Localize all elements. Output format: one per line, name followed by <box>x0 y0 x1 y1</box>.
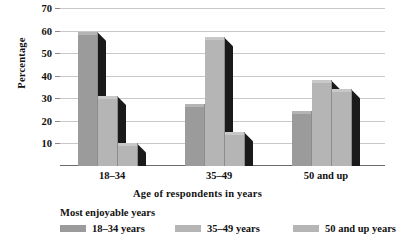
legend-label: 35–49 years <box>207 223 260 234</box>
bar-top-face <box>78 32 97 35</box>
legend-item[interactable]: 18–34 years <box>60 223 145 234</box>
bar <box>225 132 244 166</box>
x-tick-label: 35–49 <box>206 170 232 181</box>
x-axis-title: Age of respondents in years <box>0 188 395 199</box>
legend-label: 50 and up years <box>325 223 396 234</box>
y-tick-label: 20 <box>42 115 53 126</box>
bar-group <box>78 8 156 166</box>
legend-item[interactable]: 50 and up years <box>293 223 396 234</box>
y-tick-label: 10 <box>42 138 53 149</box>
y-tick-label: 30 <box>42 93 53 104</box>
y-tick-mark <box>55 121 60 122</box>
x-tick-label: 50 and up <box>304 170 348 181</box>
bar-front-face <box>225 132 245 166</box>
bar-front-face <box>312 80 332 166</box>
legend-swatch <box>293 225 319 232</box>
bar <box>185 104 204 166</box>
bar-top-face <box>185 104 204 107</box>
y-tick-label: 60 <box>42 25 53 36</box>
y-tick-mark <box>55 76 60 77</box>
y-tick-label: 70 <box>42 3 53 14</box>
bar-top-face <box>292 111 311 114</box>
bar-front-face <box>118 143 138 166</box>
x-tick-label: 18–34 <box>99 170 125 181</box>
y-axis-title: Percentage <box>16 13 32 113</box>
bar-side-face <box>351 89 360 166</box>
bar-group <box>292 8 370 166</box>
bar-top-face <box>225 132 244 135</box>
bar-side-face <box>137 143 146 166</box>
bar-top-face <box>332 89 351 92</box>
bar-top-face <box>312 80 331 83</box>
y-tick-mark <box>55 8 60 9</box>
y-tick-mark <box>55 53 60 54</box>
y-tick-label: 40 <box>42 70 53 81</box>
y-tick-mark <box>55 98 60 99</box>
bar-top-face <box>205 37 224 40</box>
legend-label: 18–34 years <box>92 223 145 234</box>
bar-front-face <box>98 96 118 166</box>
bar-front-face <box>205 37 225 166</box>
y-tick-mark <box>55 143 60 144</box>
bar-front-face <box>78 32 98 166</box>
legend-items: 18–34 years35–49 years50 and up years <box>60 223 395 237</box>
plot-inner: 10203040506070 <box>60 8 385 166</box>
bar-top-face <box>118 143 137 146</box>
bar <box>312 80 331 166</box>
bar-front-face <box>332 89 352 166</box>
bar <box>332 89 351 166</box>
bar <box>205 37 224 166</box>
bar <box>292 111 311 166</box>
y-tick-label: 50 <box>42 48 53 59</box>
plot-area: 10203040506070 <box>60 8 385 166</box>
bar-side-face <box>244 132 253 166</box>
bar <box>98 96 117 166</box>
bar-front-face <box>185 104 205 166</box>
bar-top-face <box>98 96 117 99</box>
bar <box>78 32 97 166</box>
legend-title: Most enjoyable years <box>60 207 395 218</box>
legend-item[interactable]: 35–49 years <box>175 223 260 234</box>
y-tick-mark <box>55 31 60 32</box>
legend-swatch <box>175 225 201 232</box>
bar <box>118 143 137 166</box>
legend: Most enjoyable years 18–34 years35–49 ye… <box>60 207 395 237</box>
bar-front-face <box>292 111 312 166</box>
bar-group <box>185 8 263 166</box>
legend-swatch <box>60 225 86 232</box>
